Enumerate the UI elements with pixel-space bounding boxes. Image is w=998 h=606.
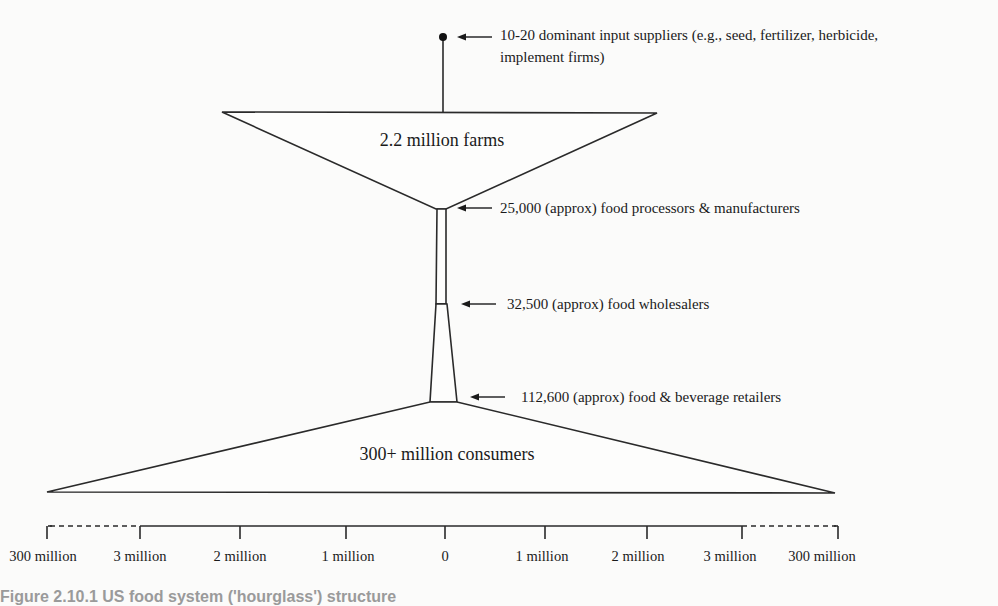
- tick-label-right-1m: 1 million: [516, 548, 569, 565]
- farms-triangle: [222, 112, 657, 209]
- count-axis: [47, 526, 838, 539]
- tick-label-left-1m: 1 million: [322, 548, 375, 565]
- tick-label-zero: 0: [441, 548, 448, 565]
- tick-label-right-2m: 2 million: [612, 548, 665, 565]
- suppliers-label-line2: implement firms): [500, 47, 605, 67]
- processors-neck: [436, 209, 446, 304]
- retailers-label: 112,600 (approx) food & beverage retaile…: [521, 387, 781, 407]
- tick-label-right-300m: 300 million: [788, 548, 855, 565]
- processors-label: 25,000 (approx) food processors & manufa…: [500, 198, 800, 218]
- figure-caption: Figure 2.10.1 US food system ('hourglass…: [0, 588, 396, 606]
- arrow-processors-icon: [457, 205, 492, 212]
- supplier-dot-icon: [439, 33, 447, 41]
- tick-label-left-3m: 3 million: [114, 548, 167, 565]
- arrow-suppliers-icon: [457, 34, 492, 41]
- suppliers-label-line1: 10-20 dominant input suppliers (e.g., se…: [500, 25, 878, 45]
- arrow-retailers-icon: [470, 394, 505, 401]
- tick-label-left-300m: 300 million: [9, 548, 76, 565]
- tick-label-right-3m: 3 million: [704, 548, 757, 565]
- wholesalers-label: 32,500 (approx) food wholesalers: [507, 294, 709, 314]
- arrow-wholesalers-icon: [461, 301, 496, 308]
- consumers-label: 300+ million consumers: [359, 444, 534, 465]
- farms-label: 2.2 million farms: [380, 130, 505, 151]
- wholesalers-neck: [430, 304, 457, 402]
- tick-label-left-2m: 2 million: [214, 548, 267, 565]
